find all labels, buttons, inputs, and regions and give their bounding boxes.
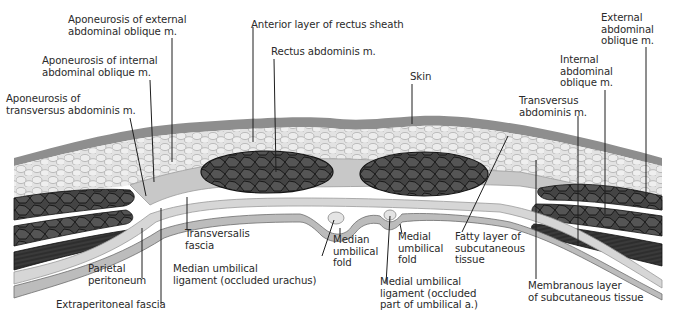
label-external-abdominal-oblique: External abdominal oblique m. [601,12,654,47]
label-medial-umbilical-ligament: Medial umbilical ligament (occluded part… [380,276,478,311]
label-parietal-peritoneum: Parietal peritoneum [88,263,146,286]
label-medial-umbilical-fold: Medial umbilical fold [398,231,443,266]
label-aponeurosis-internal-oblique: Aponeurosis of internal abdominal obliqu… [42,55,158,78]
rectus-abdominis-left [201,151,333,193]
label-aponeurosis-external-oblique: Aponeurosis of external abdominal obliqu… [68,14,186,37]
label-rectus-abdominis: Rectus abdominis m. [271,46,376,58]
label-membranous-layer-subcutaneous: Membranous layer of subcutaneous tissue [528,280,644,303]
label-transversus-abdominis: Transversus abdominis m. [519,95,587,118]
label-transversalis-fascia: Transversalis fascia [185,228,250,251]
rectus-abdominis-right [360,152,488,196]
label-aponeurosis-transversus: Aponeurosis of transversus abdominis m. [6,93,136,116]
label-anterior-rectus-sheath: Anterior layer of rectus sheath [251,19,404,31]
label-skin: Skin [410,71,431,83]
label-extraperitoneal-fascia: Extraperitoneal fascia [56,299,166,311]
label-median-umbilical-fold: Median umbilical fold [333,234,378,269]
label-fatty-layer-subcutaneous: Fatty layer of subcutaneous tissue [455,231,525,266]
label-median-umbilical-ligament: Median umbilical ligament (occluded urac… [173,263,316,286]
label-internal-abdominal-oblique: Internal abdominal oblique m. [560,54,613,89]
median-umbilical-ligament-shape [328,212,344,224]
